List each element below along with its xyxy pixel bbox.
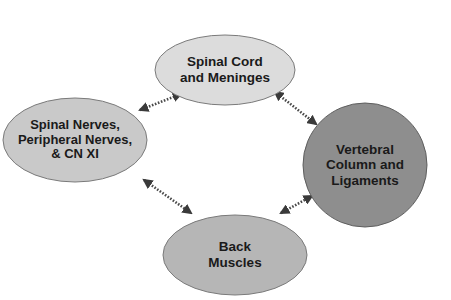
node-vertebral-column-line-3: Ligaments (331, 173, 399, 189)
node-spinal-nerves-line-3: & CN XI (51, 147, 99, 162)
connector-spinal-nerves-back-muscles (144, 180, 191, 213)
node-spinal-cord-label: Spinal Cord and Meninges (155, 35, 295, 105)
node-back-muscles-line-1: Back (219, 239, 251, 255)
node-back-muscles-line-2: Muscles (208, 255, 261, 271)
node-spinal-nerves-line-2: Peripheral Nerves, (18, 133, 132, 148)
node-vertebral-column-line-2: Column and (326, 157, 404, 173)
node-vertebral-column-label: Vertebral Column and Ligaments (303, 103, 427, 227)
node-back-muscles-label: Back Muscles (163, 215, 307, 295)
node-spinal-cord-line-2: and Meninges (180, 70, 270, 86)
node-vertebral-column-line-1: Vertebral (336, 142, 394, 158)
node-spinal-nerves-label: Spinal Nerves, Peripheral Nerves, & CN X… (3, 98, 147, 182)
node-spinal-cord-line-1: Spinal Cord (187, 54, 263, 70)
node-spinal-nerves-line-1: Spinal Nerves, (30, 118, 120, 133)
